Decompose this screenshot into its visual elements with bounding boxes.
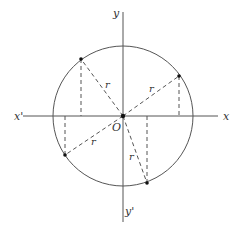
radius-q1 [123,76,179,116]
radius-q2 [81,59,123,116]
radius-label-q1: r [149,83,155,94]
point-q1 [177,74,181,78]
radius-q4 [123,116,147,183]
origin-label: O [112,121,121,134]
y-neg-axis-label: y' [124,205,134,218]
point-q3 [63,153,67,157]
radius-label-q4: r [129,151,135,162]
radius-label-q2: r [105,79,111,90]
origin-point [121,114,125,118]
y-axis-label: y [112,7,120,20]
point-q4 [145,181,149,185]
radius-label-q3: r [91,136,97,147]
x-axis-label: x [223,110,230,123]
x-neg-axis-label: x' [14,110,23,123]
circle-diagram: x x' y y' O r r r r [0,0,241,233]
point-q2 [79,57,83,61]
